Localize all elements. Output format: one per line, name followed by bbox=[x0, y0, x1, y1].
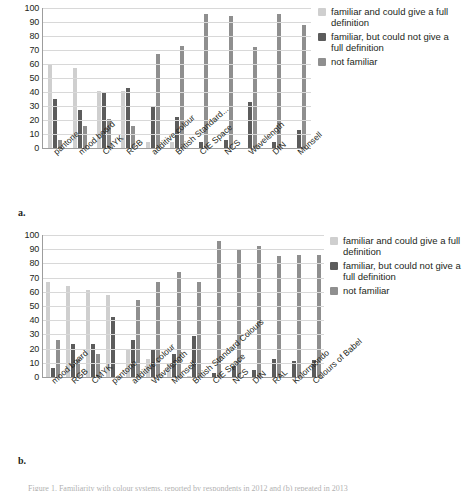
legend-label: familiar, but could not give a full defi… bbox=[331, 31, 449, 53]
y-axis-tick-label: 100 bbox=[25, 4, 43, 13]
bar bbox=[146, 142, 150, 148]
y-axis-tick-label: 50 bbox=[29, 74, 43, 83]
legend-item: not familiar bbox=[330, 285, 475, 296]
y-axis-tick-label: 0 bbox=[34, 373, 43, 382]
chart-b: 1009080706050403020100 mood boardRGBCMYK… bbox=[0, 227, 475, 462]
y-axis-tick-label: 30 bbox=[29, 102, 43, 111]
legend-swatch-icon bbox=[318, 58, 326, 66]
legend-swatch-icon bbox=[318, 8, 326, 16]
legend-label: not familiar bbox=[331, 56, 377, 67]
gridline bbox=[43, 78, 311, 79]
panel-b-label: b. bbox=[18, 455, 26, 466]
legend-swatch-icon bbox=[330, 287, 338, 295]
gridline bbox=[43, 64, 311, 65]
y-axis-tick-label: 100 bbox=[25, 231, 43, 240]
y-axis-tick-label: 40 bbox=[29, 316, 43, 325]
y-axis-tick-label: 30 bbox=[29, 330, 43, 339]
gridline bbox=[43, 320, 324, 321]
y-axis-tick-label: 90 bbox=[29, 18, 43, 27]
bar bbox=[78, 110, 82, 148]
y-axis-tick-label: 0 bbox=[34, 144, 43, 153]
legend-label: familiar and could give a full definitio… bbox=[343, 235, 461, 257]
legend-swatch-icon bbox=[330, 237, 338, 245]
gridline bbox=[43, 22, 311, 23]
y-axis-tick-label: 10 bbox=[29, 130, 43, 139]
figure-panel-a: 1009080706050403020100 pantonemood board… bbox=[0, 0, 475, 222]
gridline bbox=[43, 292, 324, 293]
gridline bbox=[43, 106, 311, 107]
figure-caption: Figure 1. Familiarity with colour system… bbox=[28, 484, 468, 491]
chart-b-legend: familiar and could give a full definitio… bbox=[330, 235, 475, 299]
bar bbox=[253, 47, 257, 148]
chart-a: 1009080706050403020100 pantonemood board… bbox=[0, 0, 475, 222]
y-axis-tick-label: 80 bbox=[29, 259, 43, 268]
y-axis-tick-label: 70 bbox=[29, 46, 43, 55]
legend-item: familiar, but could not give a full defi… bbox=[318, 31, 468, 53]
legend-label: not familiar bbox=[343, 285, 389, 296]
bar bbox=[257, 246, 261, 377]
legend-label: familiar, but could not give a full defi… bbox=[343, 260, 461, 282]
legend-item: not familiar bbox=[318, 56, 468, 67]
gridline bbox=[43, 235, 324, 236]
y-axis-tick-label: 10 bbox=[29, 358, 43, 367]
gridline bbox=[43, 120, 311, 121]
gridline bbox=[43, 8, 311, 9]
panel-a-label: a. bbox=[18, 207, 26, 218]
chart-a-legend: familiar and could give a full definitio… bbox=[318, 6, 468, 70]
bar bbox=[126, 88, 130, 148]
y-axis-tick-label: 50 bbox=[29, 302, 43, 311]
bar bbox=[277, 256, 281, 377]
bar bbox=[151, 107, 155, 148]
gridline bbox=[43, 36, 311, 37]
gridline bbox=[43, 306, 324, 307]
bar bbox=[302, 25, 306, 148]
gridline bbox=[43, 50, 311, 51]
gridline bbox=[43, 249, 324, 250]
gridline bbox=[43, 263, 324, 264]
legend-item: familiar, but could not give a full defi… bbox=[330, 260, 475, 282]
legend-item: familiar and could give a full definitio… bbox=[330, 235, 475, 257]
y-axis-tick-label: 20 bbox=[29, 116, 43, 125]
y-axis-tick-label: 60 bbox=[29, 60, 43, 69]
y-axis-tick-label: 60 bbox=[29, 287, 43, 296]
y-axis-tick-label: 80 bbox=[29, 32, 43, 41]
y-axis-tick-label: 70 bbox=[29, 273, 43, 282]
gridline bbox=[43, 334, 324, 335]
y-axis-tick-label: 90 bbox=[29, 245, 43, 254]
legend-label: familiar and could give a full definitio… bbox=[331, 6, 449, 28]
figure-panel-b: 1009080706050403020100 mood boardRGBCMYK… bbox=[0, 227, 475, 462]
y-axis-tick-label: 40 bbox=[29, 88, 43, 97]
y-axis-tick-label: 20 bbox=[29, 344, 43, 353]
bar bbox=[248, 102, 252, 148]
gridline bbox=[43, 92, 311, 93]
legend-swatch-icon bbox=[318, 33, 326, 41]
bar bbox=[297, 255, 301, 377]
legend-item: familiar and could give a full definitio… bbox=[318, 6, 468, 28]
legend-swatch-icon bbox=[330, 262, 338, 270]
gridline bbox=[43, 278, 324, 279]
